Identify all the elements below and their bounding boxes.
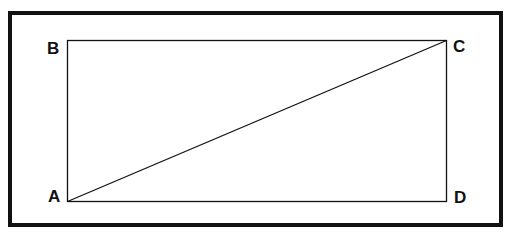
vertex-label-b: B <box>47 40 59 57</box>
diagonal-ac <box>68 41 447 202</box>
rectangle-diagram <box>0 0 510 234</box>
vertex-label-c: C <box>453 38 465 55</box>
vertex-label-a: A <box>48 188 60 205</box>
vertex-label-d: D <box>454 189 466 206</box>
